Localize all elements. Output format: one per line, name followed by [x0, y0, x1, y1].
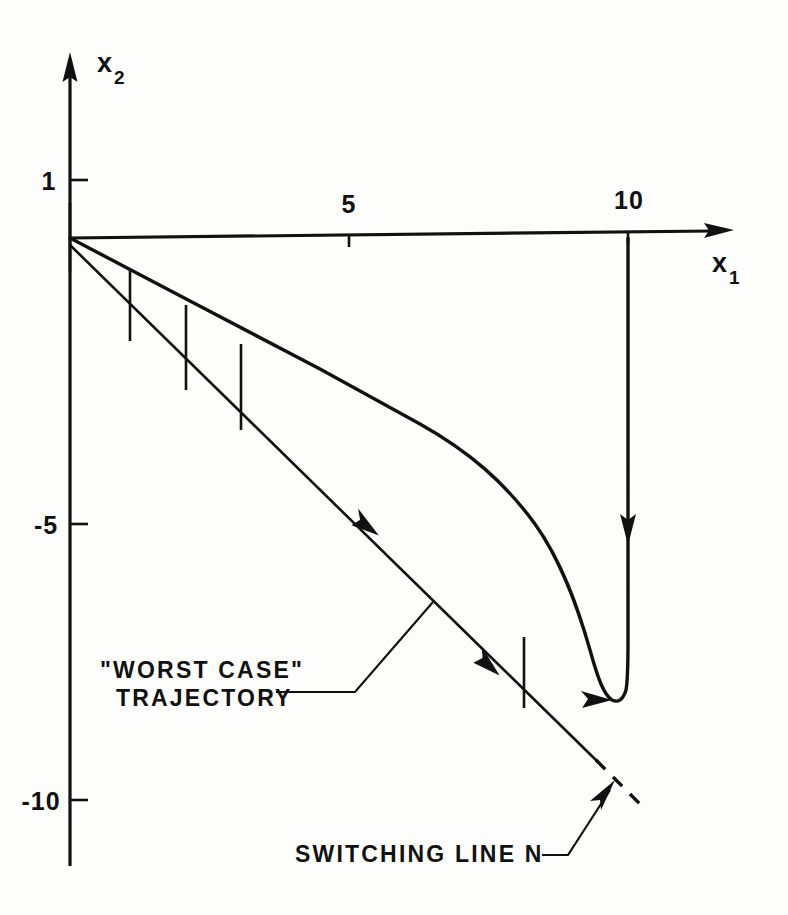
axes-group	[63, 52, 735, 866]
figure-root: 1 -5 -10 5 10 x 2 x 1	[0, 0, 788, 915]
sample-tick-bars-group	[70, 203, 524, 708]
x-tick-label-10: 10	[614, 186, 644, 214]
y-tick-label-minus10: -10	[21, 787, 60, 815]
switching-annotation-arrow-icon	[590, 780, 615, 810]
y-tick-label-1: 1	[42, 167, 57, 195]
trajectory-annotation-group: "WORST CASE" TRAJECTORY	[100, 602, 433, 711]
x-axis-line	[70, 231, 712, 238]
trajectory-annotation-line2: TRAJECTORY	[116, 685, 293, 711]
worst-case-trajectory-path	[70, 238, 628, 701]
trajectory-annotation-line1: "WORST CASE"	[100, 657, 304, 683]
y-axis-label-subscript: 2	[114, 67, 125, 88]
y-axis-label: x	[97, 48, 112, 78]
x-axis-label: x	[712, 248, 727, 278]
worst-case-trajectory-group	[70, 238, 628, 701]
y-tick-label-minus5: -5	[34, 511, 58, 539]
phase-plane-chart: 1 -5 -10 5 10 x 2 x 1	[0, 0, 788, 915]
flow-arrow-icon-1	[350, 509, 386, 539]
switching-annotation-label: SWITCHING LINE N	[295, 841, 544, 867]
flow-arrow-icon-2	[472, 647, 508, 679]
flow-arrows-group	[350, 509, 636, 708]
switching-annotation-group: SWITCHING LINE N	[295, 780, 615, 867]
x-axis-label-subscript: 1	[729, 267, 740, 288]
x-tick-label-5: 5	[342, 190, 357, 218]
